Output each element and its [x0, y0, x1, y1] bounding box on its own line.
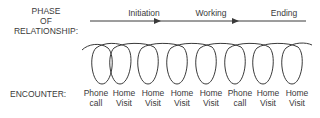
arrowhead-icon [232, 18, 239, 24]
encounter-item: HomeVisit [110, 88, 138, 108]
encounter-item: HomeVisit [139, 88, 167, 108]
encounter-label: ENCOUNTER: [10, 89, 66, 99]
encounter-item: HomeVisit [283, 88, 311, 108]
encounter-item: Phonecall [226, 88, 254, 108]
encounter-item: HomeVisit [254, 88, 282, 108]
arrowhead-icon [154, 18, 161, 24]
encounter-item: HomeVisit [168, 88, 196, 108]
encounter-coil [82, 43, 312, 84]
encounter-item: Phonecall [82, 88, 110, 108]
encounter-item: HomeVisit [197, 88, 225, 108]
timeline-arrow [90, 18, 306, 24]
